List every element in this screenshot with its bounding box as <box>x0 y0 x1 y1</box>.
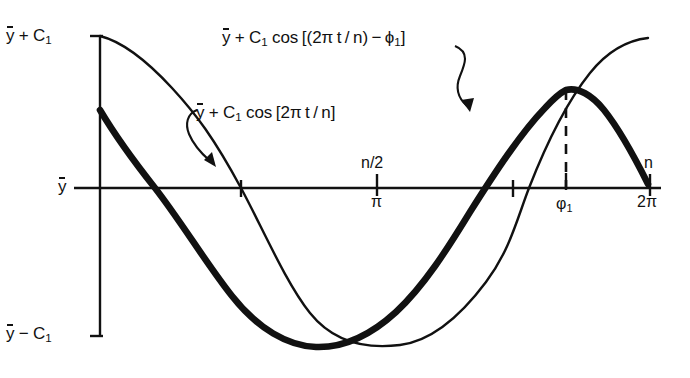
annotation-arrowhead-unshifted <box>204 152 216 167</box>
x-tick-label-half-top: n/2 <box>361 155 383 171</box>
y-axis-label-bottom: y−C1 <box>6 325 52 345</box>
x-tick-label-phi: φ1 <box>556 196 572 214</box>
overbar <box>223 28 229 30</box>
y-bar-glyph: y <box>222 29 231 46</box>
annotation-arrowhead-shifted <box>461 98 474 112</box>
equation-unshifted-amp-subscript: 1 <box>235 111 241 123</box>
annotation-arrow-shifted <box>455 46 467 106</box>
overbar <box>7 26 13 28</box>
x-tick-label-half-bottom: π <box>371 194 382 210</box>
equation-shifted-amp-subscript: 1 <box>261 36 267 48</box>
y-axis-label-top-subscript: 1 <box>45 34 51 46</box>
y-bar-glyph: y <box>196 104 205 121</box>
x-tick-label-end-bottom: 2π <box>637 194 657 210</box>
overbar <box>7 324 13 326</box>
overbar <box>197 103 203 105</box>
figure-container: y+C1 y y−C1 y+C1cos [(2π t / n) − ϕ1] y+… <box>0 0 690 378</box>
y-axis-label-bottom-subscript: 1 <box>45 332 51 344</box>
phi-subscript: 1 <box>566 202 572 214</box>
phi-symbol: φ <box>556 195 566 212</box>
y-axis-label-top: y+C1 <box>6 27 52 47</box>
equation-label-shifted: y+C1cos [(2π t / n) − ϕ1] <box>222 29 406 49</box>
plot-canvas <box>0 0 690 378</box>
curve-unshifted-cosine <box>100 36 648 346</box>
equation-label-unshifted: y+C1cos [2π t / n] <box>196 104 336 124</box>
overbar <box>59 177 65 179</box>
y-bar-glyph: y <box>6 325 15 342</box>
equation-shifted-phase-subscript: 1 <box>394 36 400 48</box>
y-bar-glyph: y <box>58 178 67 195</box>
y-axis-label-middle: y <box>58 178 67 195</box>
y-bar-glyph: y <box>6 27 15 44</box>
x-tick-label-end-top: n <box>644 155 653 171</box>
